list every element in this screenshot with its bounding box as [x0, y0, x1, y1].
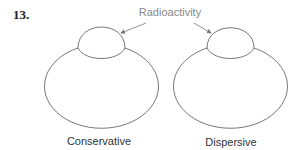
cap-dome-shape — [78, 27, 125, 48]
radioactivity-label: Radioactivity — [139, 6, 202, 18]
arrow-left-icon — [121, 23, 146, 33]
cap-dome-shape — [207, 28, 254, 48]
dispersive-panel — [173, 28, 287, 129]
parent-body-shape — [44, 48, 158, 128]
cap-base-shape — [78, 48, 125, 59]
conservative-panel — [44, 27, 158, 128]
cap-base-shape — [207, 48, 254, 59]
parent-body-shape — [173, 48, 287, 128]
replication-diagram: Radioactivity Conservative Dispersive — [0, 0, 301, 150]
dispersive-label: Dispersive — [205, 136, 256, 148]
conservative-label: Conservative — [67, 135, 131, 147]
arrow-right-icon — [194, 23, 211, 33]
